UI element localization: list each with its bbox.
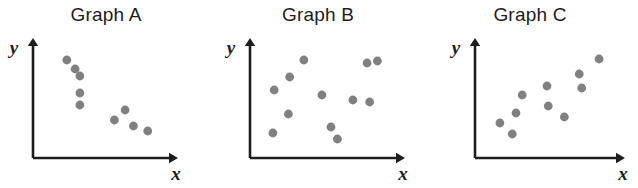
graph-plot-a: yx <box>0 0 212 188</box>
data-point <box>143 127 152 136</box>
data-point <box>373 57 382 66</box>
data-point <box>560 113 569 122</box>
data-point <box>62 56 71 65</box>
data-point <box>284 110 293 119</box>
data-point <box>270 86 279 95</box>
x-axis-label: x <box>617 163 628 184</box>
data-point <box>318 91 327 100</box>
data-point <box>508 130 517 139</box>
data-point <box>544 102 553 111</box>
data-point <box>269 129 278 138</box>
data-point <box>129 122 138 131</box>
data-point <box>577 84 586 93</box>
graph-plot-b: yx <box>212 0 424 188</box>
scatter-plot-figure: Graph A yx Graph B yx Graph C yx <box>0 0 638 188</box>
graph-plot-c: yx <box>424 0 636 188</box>
y-axis-label: y <box>225 37 236 58</box>
data-point <box>495 119 504 128</box>
data-point <box>512 109 521 118</box>
data-point <box>285 73 294 82</box>
data-point <box>518 91 527 100</box>
data-point <box>75 101 84 110</box>
data-point <box>543 82 552 91</box>
data-point <box>75 89 84 98</box>
data-point <box>595 55 604 64</box>
y-axis-label: y <box>8 37 19 58</box>
graph-panel-b: Graph B yx <box>212 0 424 188</box>
x-axis-label: x <box>170 163 181 184</box>
data-point <box>363 59 372 68</box>
data-point <box>333 135 342 144</box>
data-point <box>121 106 130 115</box>
x-axis-label: x <box>397 163 408 184</box>
data-point <box>348 96 357 105</box>
data-point <box>110 116 119 125</box>
data-point <box>327 123 336 132</box>
y-axis-label: y <box>450 37 461 58</box>
data-point <box>365 98 374 107</box>
graph-panel-a: Graph A yx <box>0 0 212 188</box>
data-point <box>299 56 308 65</box>
graph-panel-c: Graph C yx <box>424 0 636 188</box>
data-point <box>75 72 84 81</box>
data-point <box>575 70 584 79</box>
